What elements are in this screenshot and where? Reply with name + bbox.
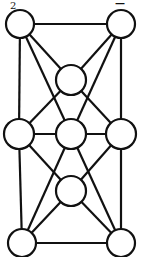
- node-TR: [107, 10, 135, 38]
- graph-diagram: [0, 0, 141, 257]
- corner-mark-top-right: —: [115, 0, 125, 8]
- node-MM: [56, 119, 86, 149]
- graph-nodes: [4, 10, 136, 257]
- node-BL: [8, 229, 36, 257]
- edge-ML-BL: [19, 134, 22, 243]
- node-MR: [106, 119, 136, 149]
- node-LM: [56, 176, 86, 206]
- edge-TL-ML: [19, 24, 20, 134]
- node-UM: [56, 65, 86, 95]
- corner-label-top-left: 2: [10, 1, 16, 11]
- node-TL: [6, 10, 34, 38]
- node-BR: [107, 229, 135, 257]
- node-ML: [4, 119, 34, 149]
